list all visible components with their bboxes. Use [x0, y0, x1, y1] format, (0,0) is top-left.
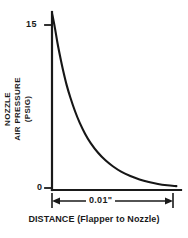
y-tick-label-0: 0: [37, 183, 42, 192]
y-axis-label-line-1: NOZZLE: [3, 92, 13, 126]
dimension-arrow-right: [165, 198, 173, 205]
pressure-decay-curve: [52, 13, 176, 186]
chart-figure: 15 0 NOZZLE AIR PRESSURE (PSIG) 0.01" DI…: [0, 0, 188, 238]
x-axis-caption: DISTANCE (Flapper to Nozzle): [0, 214, 188, 224]
y-axis-label-line-2: AIR PRESSURE: [13, 77, 23, 141]
y-axis-label: NOZZLE AIR PRESSURE (PSIG): [1, 59, 35, 159]
y-axis-label-stack: NOZZLE AIR PRESSURE (PSIG): [3, 77, 33, 141]
y-axis-label-line-3: (PSIG): [23, 96, 33, 122]
y-tick-label-15: 15: [26, 20, 37, 29]
dimension-label: 0.01": [86, 195, 115, 206]
dimension-arrow-left: [52, 198, 60, 205]
